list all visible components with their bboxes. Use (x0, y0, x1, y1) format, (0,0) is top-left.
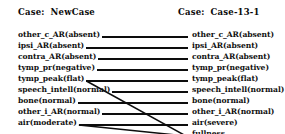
left-feature-item[interactable]: air(moderate) (18, 118, 77, 127)
right-feature-item[interactable]: other_c_AR(absent) (192, 30, 274, 39)
right-case-header: Case:Case-13-1 (178, 7, 260, 17)
left-feature-item[interactable]: contra_AR(absent) (18, 52, 96, 61)
right-feature-item[interactable]: contra_AR(absent) (192, 52, 270, 61)
right-feature-item[interactable]: air(severe) (192, 118, 238, 127)
right-feature-item[interactable]: other_i_AR(normal) (192, 107, 274, 116)
case-comparison-diagram: Case:NewCase Case:Case-13-1 other_c_AR(a… (0, 0, 285, 134)
right-case-keyword: Case: (178, 7, 205, 17)
right-feature-item[interactable]: speech_intell(normal) (192, 85, 284, 94)
right-case-value: Case-13-1 (211, 7, 260, 17)
left-case-value: NewCase (51, 7, 95, 17)
left-feature-item[interactable]: tymp_pr(negative) (18, 63, 95, 72)
right-feature-item[interactable]: tymp_peak(flat) (192, 74, 258, 83)
left-feature-item[interactable]: tymp_peak(flat) (18, 74, 84, 83)
left-feature-item[interactable]: other_c_AR(absent) (18, 30, 100, 39)
right-feature-item[interactable]: tymp_pr(negative) (192, 63, 269, 72)
left-feature-item[interactable]: ipsi_AR(absent) (18, 41, 84, 50)
left-case-header: Case:NewCase (18, 7, 95, 17)
right-feature-item[interactable]: bone(normal) (192, 96, 250, 105)
left-feature-item[interactable]: other_i_AR(normal) (18, 107, 100, 116)
right-feature-item[interactable]: fullness (192, 129, 225, 134)
left-feature-item[interactable]: speech_intell(normal) (18, 85, 110, 94)
left-feature-item[interactable]: bone(normal) (18, 96, 76, 105)
left-case-keyword: Case: (18, 7, 45, 17)
right-feature-item[interactable]: ipsi_AR(absent) (192, 41, 258, 50)
